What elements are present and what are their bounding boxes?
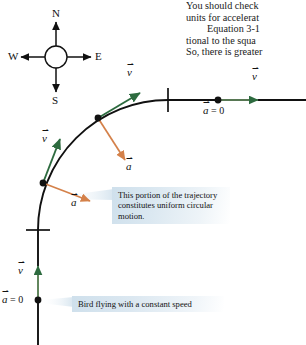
compass-label-north: N bbox=[52, 7, 60, 19]
vector-hat-icon: ⇀ bbox=[2, 288, 8, 296]
acceleration-zero-label-right: ⇀a = 0 bbox=[203, 104, 224, 116]
vector-hat-icon: ⇀ bbox=[71, 191, 77, 199]
vector-hat-icon: ⇀ bbox=[127, 61, 132, 69]
velocity-label-bottom: ⇀ v bbox=[18, 264, 23, 276]
velocity-label-upper-arc: ⇀ v bbox=[127, 66, 132, 78]
acceleration-label-lower-arc: ⇀ a bbox=[71, 196, 77, 208]
vector-hat-icon: ⇀ bbox=[126, 155, 132, 163]
body-text-line-1: You should check bbox=[186, 0, 306, 12]
callout-uniform-circular-motion: This portion of the trajectory constitut… bbox=[112, 187, 230, 224]
body-text-line-2: units for accelerat bbox=[186, 12, 306, 24]
body-text-column: You should check units for accelerat Equ… bbox=[186, 0, 306, 58]
vector-hat-icon: ⇀ bbox=[252, 65, 257, 73]
marker-right-straight bbox=[215, 97, 258, 104]
vector-hat-icon: ⇀ bbox=[203, 99, 209, 107]
marker-bottom-straight bbox=[35, 266, 42, 303]
velocity-label-right: ⇀ v bbox=[252, 70, 257, 82]
compass-label-east: E bbox=[95, 50, 102, 62]
compass-label-west: W bbox=[8, 50, 18, 62]
acceleration-vector-upper-arc bbox=[98, 118, 125, 160]
body-text-line-4: tional to the squa bbox=[186, 35, 306, 47]
vector-hat-icon: ⇀ bbox=[42, 127, 47, 135]
callout-leader-uniform bbox=[62, 189, 114, 200]
body-text-line-3: Equation 3-1 bbox=[186, 23, 306, 35]
velocity-label-lower-arc: ⇀ v bbox=[42, 132, 47, 144]
marker-lower-arc bbox=[40, 139, 90, 201]
compass-rose bbox=[21, 22, 91, 92]
callout-bird-constant-speed: Bird flying with a constant speed bbox=[72, 296, 224, 312]
acceleration-zero-label-bottom: ⇀a = 0 bbox=[2, 293, 23, 305]
marker-upper-arc bbox=[95, 93, 140, 160]
callout-leader-bird bbox=[40, 297, 74, 307]
body-text-line-5: So, there is greater bbox=[186, 46, 306, 58]
acceleration-label-upper-arc: ⇀ a bbox=[126, 160, 132, 172]
compass-label-south: S bbox=[52, 94, 58, 106]
point-bottom bbox=[35, 297, 42, 304]
point-right bbox=[215, 97, 222, 104]
vector-hat-icon: ⇀ bbox=[18, 259, 23, 267]
point-upper-arc bbox=[95, 115, 102, 122]
point-lower-arc bbox=[40, 180, 47, 187]
